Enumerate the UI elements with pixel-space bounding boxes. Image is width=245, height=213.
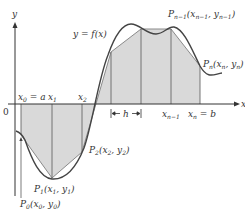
x-axis-arrow-icon bbox=[234, 102, 240, 107]
tick-label-x1: x1 bbox=[48, 92, 57, 103]
y-axis-label: y bbox=[11, 9, 18, 19]
point-label-pn: Pn(xn, yn) bbox=[202, 59, 244, 70]
trapezoid-diagram: y x 0 y = f(x) x0 = a x1 x2 xn−1 xn = b … bbox=[0, 0, 245, 213]
point-label-pn-1: Pn−1(xn−1, yn−1) bbox=[167, 9, 236, 20]
p0-leader-arrow-icon bbox=[19, 137, 22, 141]
y-axis-arrow-icon bbox=[13, 22, 18, 28]
x-axis-label: x bbox=[241, 99, 245, 109]
curve-label: y = f(x) bbox=[72, 29, 107, 39]
tick-label-xn: xn = b bbox=[188, 109, 216, 120]
point-label-p2: P2(x2, y2) bbox=[88, 145, 130, 156]
tick-label-x2: x2 bbox=[78, 92, 87, 103]
tick-label-x0: x0 = a bbox=[18, 92, 46, 103]
tick-label-xn-1: xn−1 bbox=[162, 109, 180, 120]
point-label-p0: P0(x0, y0) bbox=[19, 199, 61, 210]
interval-h-label: h bbox=[123, 109, 129, 119]
origin-label: 0 bbox=[3, 107, 9, 117]
point-label-p1: P1(x1, y1) bbox=[33, 184, 75, 195]
